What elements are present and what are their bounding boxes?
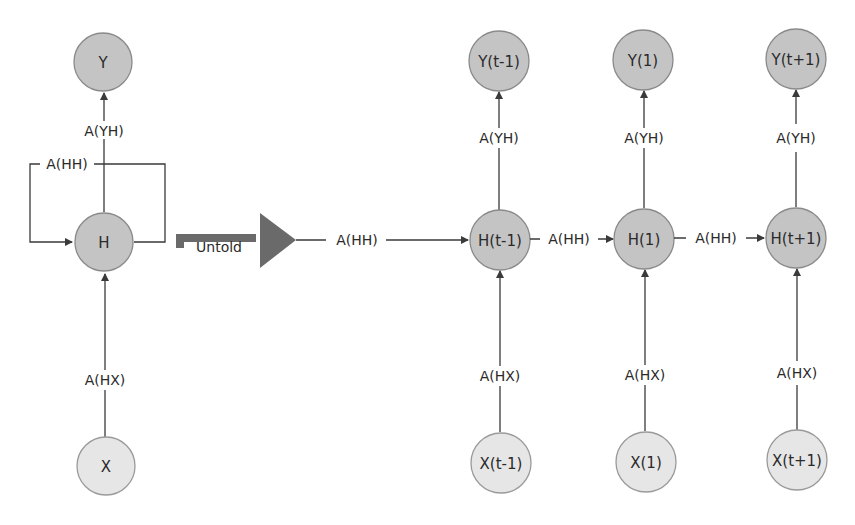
- folded-rnn: A(YH) A(HH) A(HX) Y H X: [30, 33, 165, 495]
- edge-label-hx: A(HX): [480, 368, 521, 384]
- edge-label-hh: A(HH): [695, 230, 737, 246]
- svg-text:H: H: [98, 234, 109, 252]
- node-y: Y: [74, 33, 132, 91]
- svg-text:Y(t-1): Y(t-1): [477, 53, 520, 71]
- node-x-t-minus-1: X(t-1): [471, 433, 531, 493]
- node-y-t-minus-1: Y(t-1): [469, 31, 529, 91]
- node-x: X: [77, 437, 135, 495]
- rnn-diagram: A(YH) A(HH) A(HX) Y H X Untold A(HH): [0, 0, 855, 525]
- edge-label-hx: A(HX): [777, 365, 818, 381]
- svg-text:Y(1): Y(1): [627, 52, 658, 70]
- node-h-1: H(1): [614, 209, 674, 269]
- edge-label-hx: A(HX): [625, 367, 666, 383]
- time-step-1: A(YH) A(HX) Y(1) H(1) X(1): [613, 30, 676, 492]
- svg-text:X(t-1): X(t-1): [480, 455, 523, 473]
- svg-text:X: X: [101, 458, 111, 476]
- node-h-t-plus-1: H(t+1): [766, 208, 826, 268]
- unfold-arrow: Untold: [176, 213, 296, 268]
- time-step-t-plus-1: A(YH) A(HX) Y(t+1) H(t+1) X(t+1): [766, 29, 827, 490]
- svg-text:Y(t+1): Y(t+1): [771, 51, 821, 69]
- node-x-1: X(1): [616, 432, 676, 492]
- unfold-arrow-label: Untold: [196, 239, 242, 255]
- node-x-t-plus-1: X(t+1): [767, 430, 827, 490]
- node-y-1: Y(1): [613, 30, 673, 90]
- time-step-t-minus-1: A(YH) A(HX) Y(t-1) H(t-1) X(t-1): [469, 31, 531, 493]
- svg-text:H(t+1): H(t+1): [771, 230, 822, 248]
- edge-label-yh: A(YH): [84, 123, 124, 139]
- svg-text:H(t-1): H(t-1): [478, 232, 522, 250]
- node-y-t-plus-1: Y(t+1): [766, 29, 826, 89]
- node-h: H: [75, 213, 133, 271]
- edge-label-hh: A(HH): [548, 231, 590, 247]
- edge-label-yh: A(YH): [624, 130, 664, 146]
- svg-text:Y: Y: [97, 54, 108, 72]
- svg-text:X(t+1): X(t+1): [772, 452, 822, 470]
- edge-label-yh: A(YH): [776, 130, 816, 146]
- edge-label-hx: A(HX): [85, 372, 126, 388]
- svg-text:X(1): X(1): [630, 454, 662, 472]
- edge-label-incoming-hh: A(HH): [336, 232, 378, 248]
- edge-label-hh: A(HH): [46, 156, 88, 172]
- node-h-t-minus-1: H(t-1): [470, 210, 530, 270]
- svg-text:H(1): H(1): [628, 231, 661, 249]
- edge-label-yh: A(YH): [479, 130, 519, 146]
